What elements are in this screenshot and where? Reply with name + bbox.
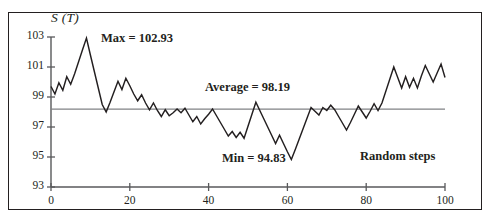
y-axis-title: S (T)	[51, 10, 79, 26]
x-tick-label: 80	[341, 194, 391, 206]
y-tick-label: 97	[16, 119, 44, 131]
chart-canvas	[0, 0, 491, 223]
max-annotation: Max = 102.93	[101, 31, 173, 46]
x-tick-label: 20	[105, 194, 155, 206]
y-tick-label: 99	[16, 89, 44, 101]
y-tick-label: 95	[16, 149, 44, 161]
y-tick-label: 103	[16, 29, 44, 41]
x-tick-label: 100	[420, 194, 470, 206]
figure-container: S (T) 93959799101103 020406080100 Max = …	[0, 0, 491, 223]
x-axis-caption: Random steps	[360, 149, 435, 164]
average-annotation: Average = 98.19	[205, 80, 290, 95]
x-tick-label: 0	[26, 194, 76, 206]
y-tick-label: 101	[16, 59, 44, 71]
y-tick-label: 93	[16, 179, 44, 191]
x-tick-label: 60	[262, 194, 312, 206]
x-tick-label: 40	[184, 194, 234, 206]
random-walk-series	[51, 38, 445, 160]
min-annotation: Min = 94.83	[222, 151, 286, 166]
